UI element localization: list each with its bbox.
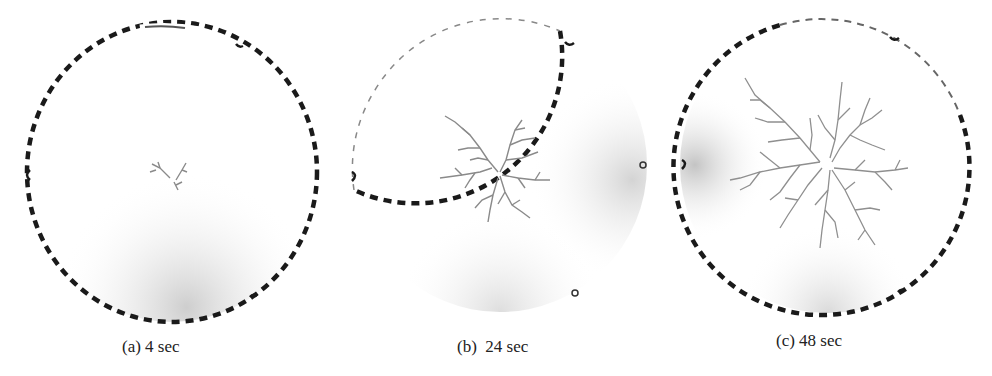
- panel-a: (a) 4 sec: [0, 0, 340, 376]
- caption-b: (b) 24 sec: [457, 337, 528, 357]
- caption-a: (a) 4 sec: [122, 337, 180, 357]
- caption-c: (c) 48 sec: [776, 331, 842, 351]
- petri-dish-a: [0, 0, 340, 330]
- panel-b: (b) 24 sec: [330, 0, 670, 376]
- petri-dish-b: [330, 0, 670, 330]
- petri-dish-c: [660, 0, 992, 330]
- panel-c: (c) 48 sec: [660, 0, 992, 376]
